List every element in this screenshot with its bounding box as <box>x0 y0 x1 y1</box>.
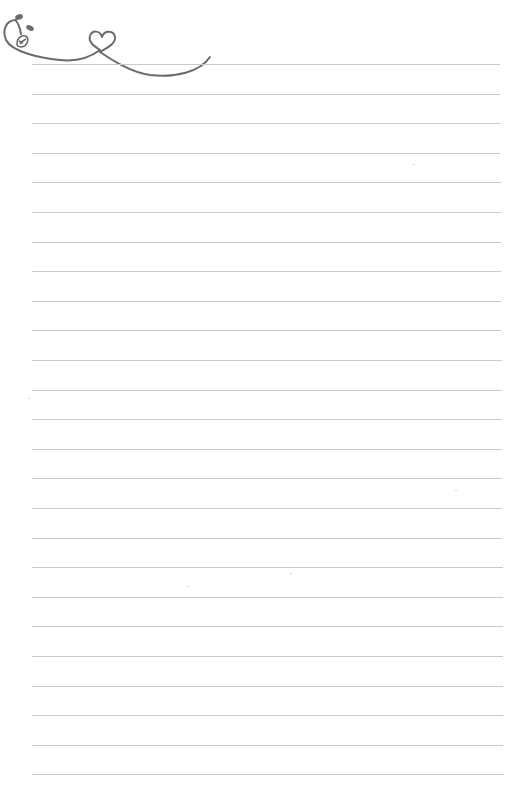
ruled-line <box>32 182 501 183</box>
ruled-line <box>32 567 503 568</box>
lined-paper-page <box>0 0 516 792</box>
ruled-line <box>32 153 500 154</box>
ruled-line <box>32 64 500 65</box>
ruled-line <box>32 330 501 331</box>
ruled-line <box>32 745 503 746</box>
ruled-line <box>32 212 501 213</box>
ruled-line <box>32 419 502 420</box>
ruled-line <box>32 715 503 716</box>
ruled-line <box>32 626 503 627</box>
ruled-line <box>32 242 501 243</box>
ruled-line <box>32 597 503 598</box>
ruled-line <box>32 538 502 539</box>
ruled-line <box>32 478 502 479</box>
ruled-line <box>32 656 503 657</box>
paper-speck <box>28 398 30 399</box>
rose-heart-flourish-icon <box>0 0 220 90</box>
ruled-line <box>32 686 503 687</box>
paper-speck <box>290 573 292 574</box>
paper-speck <box>413 164 415 165</box>
ruled-line <box>32 508 502 509</box>
ruled-line <box>32 271 501 272</box>
ruled-line <box>32 774 504 775</box>
paper-speck <box>187 586 189 587</box>
ruled-line <box>32 360 502 361</box>
ruled-line <box>32 123 500 124</box>
ruled-line <box>32 390 502 391</box>
ruled-line <box>32 301 501 302</box>
ruled-line <box>32 94 500 95</box>
paper-speck <box>455 490 457 491</box>
ruled-line <box>32 449 502 450</box>
